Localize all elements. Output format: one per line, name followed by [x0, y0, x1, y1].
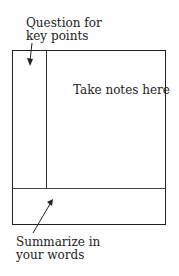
arrows — [0, 0, 179, 276]
cue-arrow-icon — [27, 43, 33, 66]
summary-arrow-icon — [33, 199, 53, 233]
